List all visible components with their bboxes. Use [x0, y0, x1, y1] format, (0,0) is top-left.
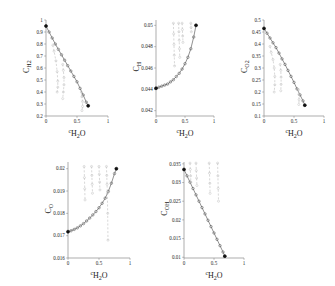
y-tick-label: 0.017 — [53, 232, 65, 238]
branch-curve — [196, 163, 197, 185]
y-tick-label: 0.015 — [169, 235, 181, 241]
y-tick-label: 0.4 — [36, 89, 43, 95]
y-tick-label: 0.2 — [36, 113, 43, 119]
y-tick-label: 0.3 — [254, 65, 261, 71]
chart-panel-bottom-left: 0.0160.0170.0180.0190.0200.51COcH2O — [20, 148, 136, 282]
y-tick-label: 0.6 — [36, 65, 43, 71]
y-tick-label: 0.2 — [254, 89, 261, 95]
y-tick-label: 0.02 — [56, 165, 65, 171]
x-tick-label: 1 — [107, 118, 110, 124]
branch-curve — [218, 163, 219, 201]
endpoint-marker — [155, 87, 158, 90]
plot-area-bottom-left: 0.0160.0170.0180.0190.0200.51 — [20, 148, 136, 282]
endpoint-marker — [67, 230, 70, 233]
branch-curve — [179, 23, 180, 57]
plot-area-top-right: 0.10.150.20.250.30.350.40.450.500.51 — [222, 6, 332, 138]
y-tick-label: 0.018 — [53, 210, 65, 216]
y-axis-label-top-center: CH — [132, 52, 141, 82]
y-tick-label: 0.25 — [252, 77, 261, 83]
x-tick-label: 0 — [263, 118, 266, 124]
y-tick-label: 0.15 — [252, 101, 261, 107]
x-axis-label-top-left: cH2O — [59, 128, 95, 139]
chart-panel-top-left: 0.20.30.40.50.60.70.80.9100.51CH2cH2O — [6, 6, 114, 138]
endpoint-marker — [183, 168, 186, 171]
figure-panel-grid: 0.20.30.40.50.60.70.80.9100.51CH2cH2O0.0… — [0, 0, 335, 286]
x-axis-label-top-right: cH2O — [276, 128, 312, 139]
x-tick-label: 0.5 — [211, 260, 218, 266]
y-tick-label: 0.01 — [172, 254, 181, 260]
x-tick-label: 0.5 — [74, 118, 81, 124]
endpoint-marker — [263, 27, 266, 30]
x-tick-label: 0.5 — [291, 118, 298, 124]
x-axis-label-bottom-left: cH2O — [81, 270, 117, 281]
plot-area-bottom-center: 0.010.0150.020.0250.030.03500.51 — [136, 148, 252, 282]
y-tick-label: 0.016 — [53, 255, 65, 261]
y-tick-label: 0.4 — [254, 41, 261, 47]
x-tick-label: 1 — [323, 118, 326, 124]
chart-panel-bottom-center: 0.010.0150.020.0250.030.03500.51COHcH2O — [136, 148, 252, 282]
y-tick-label: 1 — [40, 17, 43, 23]
y-tick-label: 0.8 — [36, 41, 43, 47]
y-tick-label: 0.02 — [172, 217, 181, 223]
y-tick-label: 0.035 — [169, 161, 181, 167]
y-tick-label: 0.048 — [141, 43, 153, 49]
y-tick-label: 0.9 — [36, 29, 43, 35]
data-point-marker — [273, 67, 275, 69]
chart-panel-top-right: 0.10.150.20.250.30.350.40.450.500.51CO2c… — [222, 6, 332, 138]
endpoint-marker — [223, 255, 226, 258]
endpoint-marker — [195, 24, 198, 27]
data-point-marker — [179, 56, 181, 58]
endpoint-marker — [303, 104, 306, 107]
y-tick-label: 0.5 — [254, 17, 261, 23]
y-tick-label: 0.5 — [36, 77, 43, 83]
y-tick-label: 0.042 — [141, 107, 153, 113]
branch-curve — [209, 163, 210, 193]
x-tick-label: 0 — [67, 260, 70, 266]
y-axis-label-top-right: CO2 — [240, 52, 249, 82]
x-tick-label: 0.5 — [96, 260, 103, 266]
data-point-marker — [298, 103, 300, 105]
branch-curve — [182, 23, 183, 42]
chart-panel-top-center: 0.0420.0440.0460.0480.0500.51CHcH2O — [114, 6, 222, 138]
branch-curve — [84, 166, 85, 199]
x-tick-label: 0 — [45, 118, 48, 124]
x-tick-label: 0 — [155, 118, 158, 124]
y-tick-label: 0.044 — [141, 86, 153, 92]
y-tick-label: 0.025 — [169, 198, 181, 204]
endpoint-marker — [115, 167, 118, 170]
data-point-marker — [280, 90, 282, 92]
endpoint-marker — [45, 25, 48, 28]
data-point-marker — [196, 184, 198, 186]
data-point-marker — [84, 199, 86, 201]
y-axis-label-bottom-left: CO — [44, 194, 53, 224]
y-tick-label: 0.3 — [36, 101, 43, 107]
x-tick-label: 1 — [243, 260, 246, 266]
data-point-marker — [81, 110, 83, 112]
data-point-marker — [99, 189, 101, 191]
x-tick-label: 0.5 — [182, 118, 189, 124]
x-tick-label: 1 — [129, 260, 132, 266]
y-axis-label-bottom-center: COH — [160, 194, 169, 224]
branch-curve — [106, 166, 108, 240]
y-axis-label-top-left: CH2 — [22, 52, 31, 82]
y-tick-label: 0.1 — [254, 113, 261, 119]
plot-area-top-center: 0.0420.0440.0460.0480.0500.51 — [114, 6, 222, 138]
x-tick-label: 0 — [183, 260, 186, 266]
x-axis-label-bottom-center: cH2O — [196, 270, 232, 281]
main-curve — [156, 25, 196, 88]
x-tick-label: 1 — [213, 118, 216, 124]
y-tick-label: 0.03 — [172, 179, 181, 185]
data-point-marker — [209, 192, 211, 194]
y-tick-label: 0.046 — [141, 65, 153, 71]
y-tick-label: 0.45 — [252, 29, 261, 35]
endpoint-marker — [87, 104, 90, 107]
branch-curve — [99, 166, 100, 189]
branch-curve — [190, 163, 191, 182]
y-tick-label: 0.35 — [252, 53, 261, 59]
y-tick-label: 0.7 — [36, 53, 43, 59]
y-tick-label: 0.05 — [144, 22, 153, 28]
branch-curve — [92, 166, 93, 193]
x-axis-label-top-center: cH2O — [167, 128, 203, 139]
branch-curve — [173, 23, 174, 66]
y-tick-label: 0.019 — [53, 188, 65, 194]
